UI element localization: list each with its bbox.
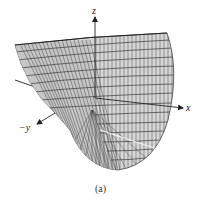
paraboloid-surface [15, 33, 174, 170]
figure-caption: (a) [0, 183, 201, 194]
z-axis-label: z [92, 6, 96, 16]
surface-plot [0, 0, 201, 200]
y-axis-label: −y [19, 123, 30, 133]
x-axis-label: x [186, 103, 190, 113]
y-axis [37, 113, 55, 124]
